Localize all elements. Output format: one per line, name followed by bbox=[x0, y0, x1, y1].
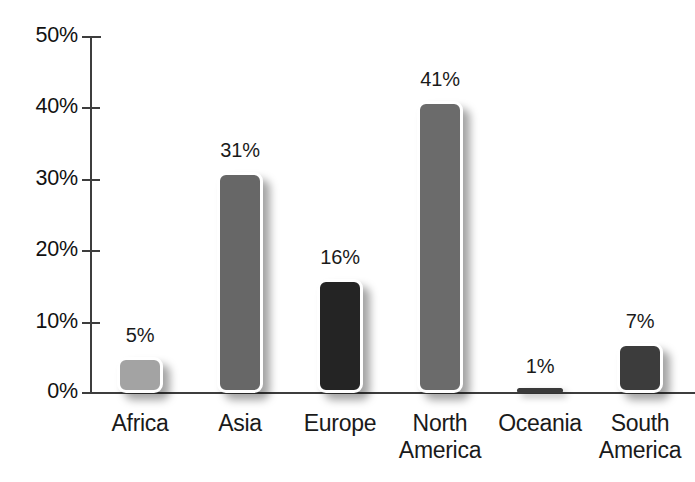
bar-group-asia[interactable]: 31% Asia bbox=[190, 0, 290, 482]
bar-europe[interactable] bbox=[317, 279, 363, 393]
y-tick-label-40: 40% bbox=[6, 96, 78, 118]
bar-south-america[interactable] bbox=[617, 343, 663, 393]
bar-value-south-america: 7% bbox=[626, 311, 655, 331]
y-tick-label-10: 10% bbox=[6, 311, 78, 333]
x-label-africa: Africa bbox=[112, 410, 169, 437]
bar-africa[interactable] bbox=[117, 357, 163, 393]
bar-group-south-america[interactable]: 7% South America bbox=[590, 0, 690, 482]
y-tick-label-0: 0% bbox=[6, 381, 78, 403]
x-label-south-america: South America bbox=[599, 410, 681, 464]
plot-area: 5% Africa 31% Asia 16% Europe 41% North … bbox=[90, 0, 695, 482]
bar-value-africa: 5% bbox=[126, 325, 155, 345]
bar-group-africa[interactable]: 5% Africa bbox=[90, 0, 190, 482]
bar-chart: 50% 40% 30% 20% 10% 0% 5% Africa bbox=[0, 0, 695, 482]
y-tick-label-20: 20% bbox=[6, 239, 78, 261]
bar-value-europe: 16% bbox=[320, 247, 359, 267]
x-label-north-america: North America bbox=[399, 410, 481, 464]
bar-value-oceania: 1% bbox=[526, 356, 555, 376]
x-label-north-europe: Europe bbox=[304, 410, 376, 437]
y-tick-label-50: 50% bbox=[6, 25, 78, 47]
bar-group-europe[interactable]: 16% Europe bbox=[290, 0, 390, 482]
bar-group-oceania[interactable]: 1% Oceania bbox=[490, 0, 590, 482]
x-label-asia: Asia bbox=[218, 410, 262, 437]
bar-oceania[interactable] bbox=[517, 388, 563, 393]
bar-asia[interactable] bbox=[217, 172, 263, 393]
bar-value-asia: 31% bbox=[220, 140, 259, 160]
y-tick-label-30: 30% bbox=[6, 168, 78, 190]
bar-group-north-america[interactable]: 41% North America bbox=[390, 0, 490, 482]
bar-value-north-america: 41% bbox=[420, 69, 459, 89]
x-label-oceania: Oceania bbox=[498, 410, 582, 437]
bar-north-america[interactable] bbox=[417, 101, 463, 393]
